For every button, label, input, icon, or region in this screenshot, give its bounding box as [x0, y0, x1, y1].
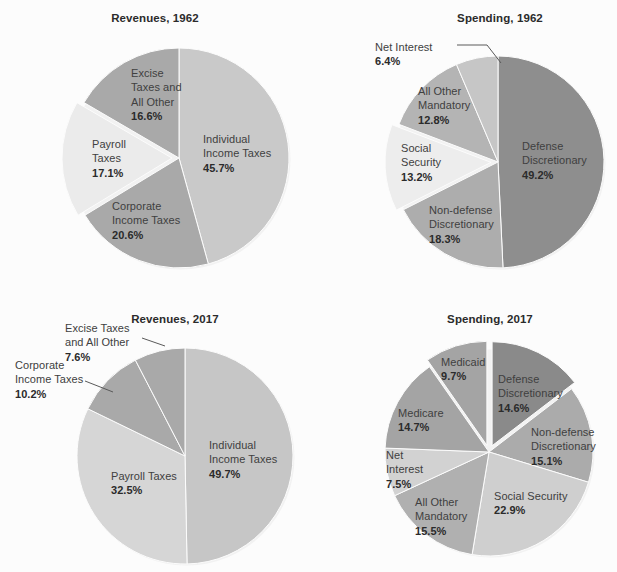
pie-slice-label: Defense Discretionary49.2% — [522, 139, 587, 182]
pie-slice-label-value: 18.3% — [429, 232, 494, 246]
pie-slice-label-value: 45.7% — [203, 161, 271, 175]
pie-slice-label: Social Security22.9% — [494, 489, 568, 518]
pie-slice-label-name: Medicare — [398, 407, 444, 419]
pie-slice-label-value: 20.6% — [112, 228, 180, 242]
pie-slice-label: Individual Income Taxes49.7% — [209, 438, 277, 481]
pie-slice-label: Corporate Income Taxes20.6% — [112, 199, 180, 242]
pie-slice-label-value: 15.5% — [415, 524, 467, 538]
pie-slice-label-value: 7.5% — [386, 477, 423, 491]
pie-slice-label-value: 17.1% — [92, 166, 126, 180]
pie-slice-label-value: 15.1% — [531, 454, 596, 468]
pie-slice-label: Non-defense Discretionary18.3% — [429, 203, 494, 246]
pie-slice-label-value: 7.6% — [65, 350, 130, 364]
pie-slice-label-name: Net Interest — [386, 449, 423, 475]
pie-slice-label-name: All Other Mandatory — [418, 85, 470, 111]
pie-slice-label-name: Social Security — [494, 490, 568, 502]
pie-slice-label-name: Non-defense Discretionary — [429, 204, 494, 230]
pie-slice-label-name: Medicaid — [441, 356, 485, 368]
pie-slice-label: Non-defense Discretionary15.1% — [531, 425, 596, 468]
pie-label-layer: Individual Income Taxes45.7%Corporate In… — [0, 0, 617, 572]
pie-slice-label: Medicare14.7% — [398, 406, 444, 435]
pie-slice-label: All Other Mandatory15.5% — [415, 495, 467, 538]
pie-slice-label-value: 14.7% — [398, 420, 444, 434]
pie-slice-label: Individual Income Taxes45.7% — [203, 132, 271, 175]
pie-slice-label: Excise Taxes and All Other16.6% — [131, 66, 182, 124]
pie-slice-label-name: All Other Mandatory — [415, 496, 467, 522]
pie-slice-label: All Other Mandatory12.8% — [418, 84, 470, 127]
pie-slice-label: Excise Taxes and All Other7.6% — [65, 321, 130, 364]
pie-slice-label-value: 10.2% — [15, 387, 83, 401]
pie-slice-label: Net Interest6.4% — [375, 40, 432, 69]
pie-slice-label-value: 9.7% — [441, 369, 485, 383]
pie-slice-label-name: Payroll Taxes — [111, 470, 177, 482]
pie-slice-label-name: Excise Taxes and All Other — [131, 67, 182, 108]
pie-slice-label-name: Individual Income Taxes — [209, 439, 277, 465]
pie-slice-label: Payroll Taxes32.5% — [111, 469, 177, 498]
pie-slice-label-value: 22.9% — [494, 503, 568, 517]
pie-slice-label: Social Security13.2% — [401, 141, 441, 184]
pie-slice-label-name: Defense Discretionary — [522, 140, 587, 166]
pie-slice-label-value: 49.7% — [209, 467, 277, 481]
pie-slice-label-value: 32.5% — [111, 483, 177, 497]
pie-slice-label-value: 14.6% — [498, 401, 563, 415]
pie-slice-label-name: Corporate Income Taxes — [112, 200, 180, 226]
pie-slice-label-name: Net Interest — [375, 41, 432, 53]
pie-slice-label: Payroll Taxes17.1% — [92, 137, 126, 180]
pie-slice-label-name: Individual Income Taxes — [203, 133, 271, 159]
pie-slice-label-name: Defense Discretionary — [498, 373, 563, 399]
pie-slice-label: Medicaid9.7% — [441, 355, 485, 384]
pie-slice-label-name: Social Security — [401, 142, 441, 168]
pie-slice-label-value: 49.2% — [522, 168, 587, 182]
pie-slice-label-value: 16.6% — [131, 109, 182, 123]
pie-slice-label-value: 12.8% — [418, 113, 470, 127]
pie-slice-label: Corporate Income Taxes10.2% — [15, 358, 83, 401]
pie-slice-label-name: Payroll Taxes — [92, 138, 126, 164]
pie-slice-label: Defense Discretionary14.6% — [498, 372, 563, 415]
chart-page: Revenues, 1962 Spending, 1962 Revenues, … — [0, 0, 617, 572]
pie-slice-label: Net Interest7.5% — [386, 448, 423, 491]
pie-slice-label-value: 13.2% — [401, 170, 441, 184]
pie-slice-label-name: Excise Taxes and All Other — [65, 322, 130, 348]
pie-slice-label-name: Non-defense Discretionary — [531, 426, 596, 452]
pie-slice-label-value: 6.4% — [375, 54, 432, 68]
